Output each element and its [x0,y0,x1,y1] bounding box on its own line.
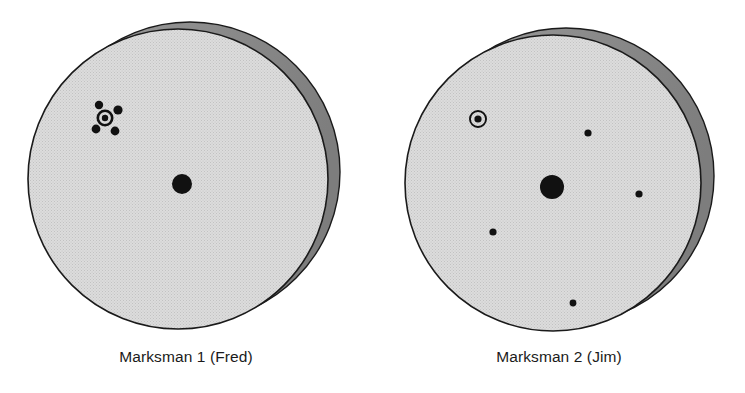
caption-marksman-1: Marksman 1 (Fred) [0,348,372,366]
target-2-bullseye-dot [474,115,481,122]
caption-marksman-2: Marksman 2 (Jim) [373,348,745,366]
target-2-shot-3 [489,228,496,235]
target-2-shot-4 [570,300,577,307]
target-2-graphic [405,28,714,331]
target-panel-marksman-2 [0,0,745,393]
target-disc-marksman-2 [0,0,745,393]
target-2-center-dot [540,175,564,199]
target-2-shot-1 [584,129,591,136]
marksman-target-figure: Marksman 1 (Fred) Marksman 2 (Jim) [0,0,745,393]
target-2-shot-2 [635,190,642,197]
